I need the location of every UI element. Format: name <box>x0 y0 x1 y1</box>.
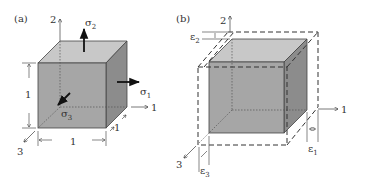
axis-2-label: 2 <box>220 15 226 26</box>
panel-a-label: (a) <box>14 13 28 24</box>
axis-3-label: 3 <box>17 146 23 157</box>
panel-b: (b) 2 1 3 <box>176 13 347 179</box>
epsilon-1-dimension <box>307 110 318 142</box>
axis-3-arrow <box>24 131 35 142</box>
panel-b-label: (b) <box>176 13 190 24</box>
sigma-1-label: σ1 <box>140 86 151 100</box>
width-label: 1 <box>70 136 76 147</box>
axis-1-label: 1 <box>341 104 347 115</box>
axis-3-label: 3 <box>176 159 182 170</box>
sigma-2-label: σ2 <box>85 17 96 31</box>
depth-label: 1 <box>114 122 120 133</box>
panel-a: (a) 2 1 3 σ2 σ1 σ3 <box>14 13 157 157</box>
axis-2-label: 2 <box>50 14 56 25</box>
axis-3-arrow <box>184 146 196 158</box>
epsilon-1-label: ε1 <box>308 143 318 157</box>
stress-strain-figure: (a) 2 1 3 σ2 σ1 σ3 <box>0 0 366 186</box>
epsilon-2-dimension <box>202 32 230 39</box>
cube-front-face <box>209 62 284 133</box>
epsilon-3-label: ε3 <box>200 165 210 179</box>
epsilon-2-label: ε2 <box>190 31 200 45</box>
axis-1-label: 1 <box>151 102 157 113</box>
height-label: 1 <box>25 89 31 100</box>
